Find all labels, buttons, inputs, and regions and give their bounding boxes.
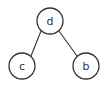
node-c: c: [9, 53, 35, 79]
node-b-label: b: [83, 60, 90, 73]
edge-d-b: [59, 31, 77, 56]
node-b: b: [73, 53, 99, 79]
node-d-label: d: [47, 15, 54, 28]
edge-d-c: [31, 31, 41, 56]
tree-diagram: d c b: [0, 0, 107, 86]
node-c-label: c: [19, 60, 25, 73]
node-d: d: [37, 8, 63, 34]
